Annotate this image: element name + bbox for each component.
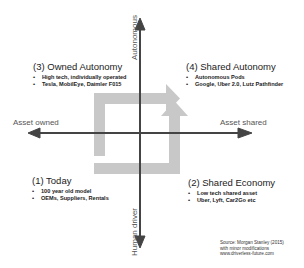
bullet-item: OEMs, Suppliers, Rentals — [32, 195, 109, 202]
quadrant-title: (1) Today — [32, 175, 109, 186]
quadrant-title: (2) Shared Economy — [188, 177, 275, 188]
axis-label-asset-owned: Asset owned — [13, 118, 59, 127]
bullet-item: Google, Uber 2.0, Lutz Pathfinder — [186, 81, 283, 88]
arrow-left-icon — [28, 128, 40, 138]
arrow-right-icon — [238, 128, 252, 138]
quadrant-owned-autonomy: (3) Owned Autonomy High tech, individual… — [33, 61, 127, 88]
bullet-item: Low tech shared asset — [188, 190, 275, 197]
axis-label-autonomous: Autonomous — [130, 15, 139, 60]
source-line: Source: Morgan Stanley (2015) — [220, 240, 284, 246]
axes — [28, 18, 252, 248]
bullet-item: Uber, Lyft, Car2Go etc — [188, 197, 275, 204]
quadrant-bullets: 100 year old model OEMs, Suppliers, Rent… — [32, 188, 109, 202]
source-note: Source: Morgan Stanley (2015) with minor… — [220, 240, 284, 257]
bullet-item: High tech, individually operated — [33, 74, 127, 81]
quadrant-title: (4) Shared Autonomy — [186, 61, 283, 72]
quadrant-bullets: Autonomous Pods Google, Uber 2.0, Lutz P… — [186, 74, 283, 88]
axis-label-asset-shared: Asset shared — [220, 118, 267, 127]
bullet-item: 100 year old model — [32, 188, 109, 195]
quadrant-title: (3) Owned Autonomy — [33, 61, 127, 72]
quadrant-shared-economy: (2) Shared Economy Low tech shared asset… — [188, 177, 275, 204]
quadrant-bullets: Low tech shared asset Uber, Lyft, Car2Go… — [188, 190, 275, 204]
bullet-item: Tesla, MobilEye, Daimler F015 — [33, 81, 127, 88]
quadrant-shared-autonomy: (4) Shared Autonomy Autonomous Pods Goog… — [186, 61, 283, 88]
bullet-item: Autonomous Pods — [186, 74, 283, 81]
axis-label-human-driver: Human driver — [130, 208, 139, 256]
source-url: www.driverless-future.com — [220, 251, 284, 257]
quadrant-today: (1) Today 100 year old model OEMs, Suppl… — [32, 175, 109, 202]
quadrant-bullets: High tech, individually operated Tesla, … — [33, 74, 127, 88]
path-via-owned-autonomy — [94, 84, 180, 156]
diagram-graphics — [0, 0, 304, 268]
